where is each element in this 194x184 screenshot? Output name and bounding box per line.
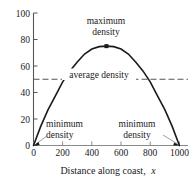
annotation-average-density: average density [62, 69, 136, 81]
x-tick-label-1000: 1000 [170, 148, 189, 158]
svg-text:Distance along coast,: Distance along coast, x [60, 165, 156, 176]
x-tick-label-800: 800 [143, 148, 158, 158]
y-tick-label-40: 40 [21, 88, 31, 98]
minimum-density-left-label-line2: density [46, 130, 74, 140]
maximum-density-marker [104, 44, 108, 48]
x-tick-label-400: 400 [85, 148, 100, 158]
x-axis-ticks [34, 142, 180, 146]
y-axis-tick-labels: 100 80 60 40 20 0 [16, 9, 31, 152]
annotation-maximum-density: maximum density [87, 16, 126, 37]
x-tick-label-600: 600 [114, 148, 129, 158]
average-density-label: average density [69, 70, 129, 80]
x-axis-title-text: Distance along coast, [60, 165, 145, 176]
y-tick-label-60: 60 [21, 62, 31, 72]
annotation-minimum-density-left: minimum density [46, 119, 84, 140]
x-tick-label-0: 0 [31, 148, 36, 158]
chart-canvas: 100 80 60 40 20 0 0 200 400 600 800 1000 [0, 0, 194, 184]
annotation-minimum-density-right: minimum density [119, 119, 157, 140]
density-chart: 100 80 60 40 20 0 0 200 400 600 800 1000 [0, 0, 194, 184]
x-tick-label-200: 200 [55, 148, 70, 158]
x-axis-title-variable: x [150, 165, 156, 176]
x-axis-tick-labels: 0 200 400 600 800 1000 [31, 148, 189, 158]
y-tick-label-20: 20 [21, 115, 31, 125]
y-tick-label-0: 0 [25, 141, 30, 151]
maximum-density-label-line2: density [92, 27, 120, 37]
y-tick-label-80: 80 [21, 35, 31, 45]
maximum-density-label-line1: maximum [87, 16, 126, 26]
minimum-density-right-label-line1: minimum [119, 119, 157, 129]
x-axis-title: Distance along coast, x [60, 165, 156, 176]
minimum-density-left-label-line1: minimum [46, 119, 84, 129]
minimum-density-right-label-line2: density [123, 130, 151, 140]
y-tick-label-100: 100 [16, 9, 31, 19]
